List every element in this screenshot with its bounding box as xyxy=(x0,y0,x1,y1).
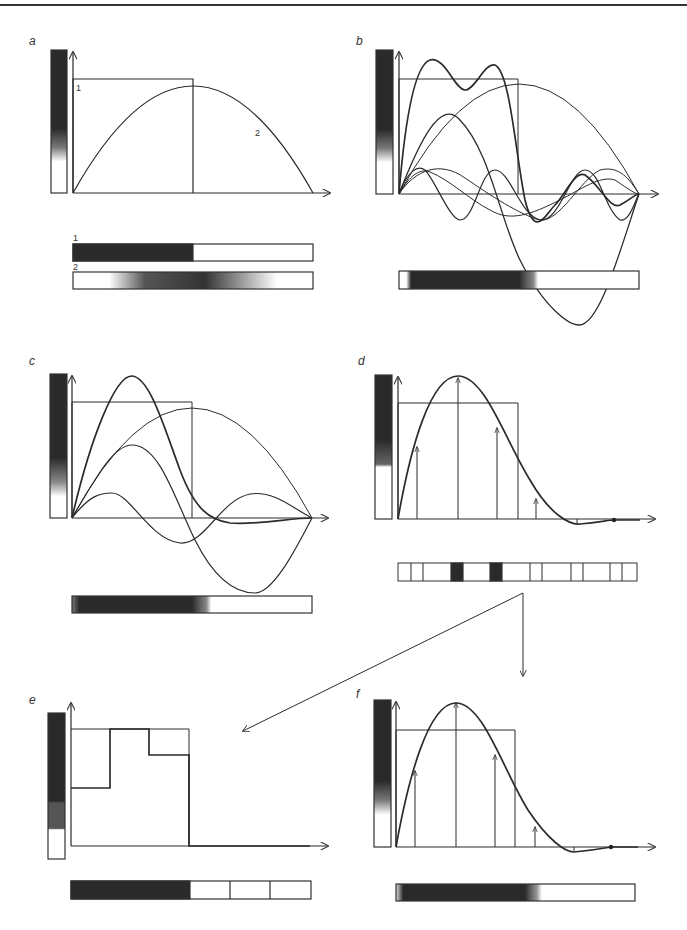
horizontal-bar-f xyxy=(396,884,635,901)
rect-pulse-curve-1 xyxy=(73,79,193,193)
panel-a xyxy=(51,50,330,289)
vertical-intensity-bar-f xyxy=(374,700,391,847)
vertical-intensity-bar-e xyxy=(48,713,65,859)
bar-label-2: 2 xyxy=(73,262,78,272)
figure-canvas: 1 2 1 2 xyxy=(0,0,687,930)
horizontal-bar-c xyxy=(72,596,312,613)
vertical-intensity-bar-d xyxy=(375,375,392,519)
cell-bar-d xyxy=(398,563,637,581)
bar-label-1: 1 xyxy=(73,233,78,243)
cell-bar-e xyxy=(71,881,311,899)
panel-c xyxy=(50,374,328,613)
vertical-intensity-bar-c xyxy=(50,374,67,518)
horizontal-bar-b xyxy=(399,271,639,289)
curve-label-1: 1 xyxy=(76,83,81,93)
panel-d xyxy=(375,375,655,581)
curve-label-2: 2 xyxy=(255,128,260,138)
panel-f xyxy=(374,700,655,901)
panel-e xyxy=(48,703,328,899)
panel-b xyxy=(376,50,658,325)
vertical-intensity-bar-a xyxy=(51,50,67,193)
horizontal-bar-2 xyxy=(73,272,313,289)
vertical-intensity-bar-b xyxy=(376,50,393,194)
